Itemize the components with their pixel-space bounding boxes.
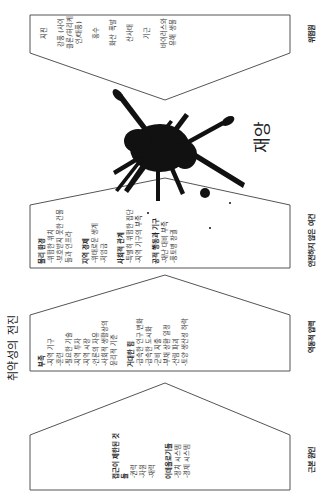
group-heading: 물리 환경 <box>38 208 47 264</box>
list-item: -산림 파괴 <box>172 317 181 367</box>
hazard-item: 지진 <box>40 16 49 50</box>
list-item: -재력 <box>148 427 157 479</box>
list-item: -군비 지출 <box>154 317 163 367</box>
hazard-item: 강풍 (사이클론/허리케인/태풍) <box>57 16 84 50</box>
list-item: -자원 <box>139 427 148 479</box>
root-causes-content: 접근이 제한된 것들 -권력 -자원 -재력 이데올로기들 -정치 시스템 -경… <box>112 427 192 479</box>
list-item: -언론의 자유 <box>92 317 101 367</box>
list-item: -지역 시장 <box>83 317 92 367</box>
unsafe-conditions-content: 물리 환경 -위험한 위치 -보호받지 못한 건물들과 인프라 지역 경제 -위… <box>38 208 179 264</box>
list-item: -위태로운 생계 <box>91 208 100 264</box>
hazard-item: 화산 폭발 <box>109 16 118 50</box>
list-item: -급속한 인구 변화 <box>136 317 145 367</box>
group-heading: 접근이 제한된 것들 <box>112 427 130 479</box>
group-heading: 이데올로기들 <box>165 427 174 479</box>
list-item: -정치 시스템 <box>174 427 183 479</box>
hazard-item: 바이러스와 유해 생물 <box>160 16 178 50</box>
dynamic-pressures-content: 부족 -지역 기구 -훈련 -필요한 기술 -지역 투자 -지역 시장 -언론의… <box>38 317 190 367</box>
list-item: -지역 기구의 부족 <box>135 208 144 264</box>
list-item: -부채 상환 일정 <box>163 317 172 367</box>
list-item: -필요한 기술 <box>65 317 74 367</box>
list-item: -위험한 위치 <box>47 208 56 264</box>
pressure-and-release-diagram: 취약성의 전진 접근이 제한된 것들 -권력 -자원 -재력 이데올로기들 -정… <box>0 0 329 493</box>
group-heading: 공적 행동과 기구 <box>152 208 161 264</box>
list-item: -저임금 <box>100 208 109 264</box>
list-item: -급속한 도시화 <box>145 317 154 367</box>
disaster-label: 재앙 <box>248 121 273 153</box>
diagram-title: 취약성의 전진 <box>4 314 20 381</box>
stage-label-hazards: 위험원 <box>306 25 316 43</box>
list-item: -토양 생산성 하락 <box>181 317 190 367</box>
list-item: -지역 투자 <box>74 317 83 367</box>
stage-label-root-causes: 근본 원인 <box>306 447 316 473</box>
group-heading: 거대한 힘 <box>127 317 136 367</box>
list-item: -풍토병 창궐 <box>170 208 179 264</box>
stage-label-unsafe-conditions: 안전하지 않은 여건 <box>306 214 316 267</box>
group-heading: 사회적 관계 <box>117 208 126 264</box>
list-item: -재난 대비 부족 <box>161 208 170 264</box>
hazard-item: 기근 <box>143 16 152 50</box>
hazards-content: 지진 강풍 (사이클론/허리케인/태풍) 홍수 화산 폭발 산사태 기근 바이러… <box>40 16 178 50</box>
stage-label-dynamic-pressures: 역동적 압력 <box>306 321 316 353</box>
hazard-item: 홍수 <box>92 16 101 50</box>
list-item: -보호받지 못한 건물들과 인프라 <box>56 208 74 264</box>
list-item: -훈련 <box>56 317 65 367</box>
group-heading: 지역 경제 <box>82 208 91 264</box>
list-item: -사회적 생활상의 윤리적 기준 <box>101 317 119 367</box>
list-item: -특별히 위험한 집단 <box>126 208 135 264</box>
list-item: -지역 기구 <box>47 317 56 367</box>
group-heading: 부족 <box>38 317 47 367</box>
hazard-item: 산사태 <box>126 16 135 50</box>
list-item: -경제 시스템 <box>183 427 192 479</box>
list-item: -권력 <box>130 427 139 479</box>
